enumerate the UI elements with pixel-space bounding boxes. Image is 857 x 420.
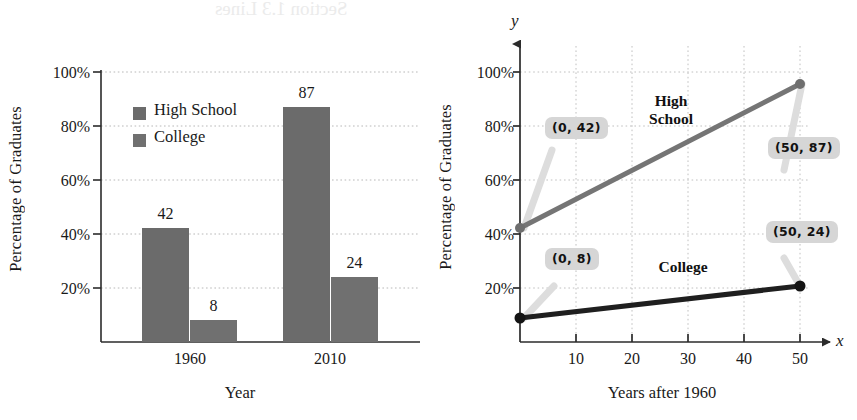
bar-x-axis-title: Year [160, 383, 320, 403]
legend-label-college: College [154, 127, 205, 147]
series-label-high-school-line2: School [628, 111, 714, 127]
legend-label-high-school: High School [154, 100, 237, 120]
series-label-college: College [638, 259, 728, 275]
bar-value-2010-college: 24 [331, 254, 378, 272]
callout-0-8: (0, 8) [545, 248, 599, 270]
bar-value-1960-college: 8 [190, 297, 237, 315]
legend-swatch-college [133, 134, 146, 147]
bar-1960-college [190, 320, 237, 342]
series-label-high-school-line1: High [628, 93, 714, 109]
line-xtick-20: 20 [602, 350, 662, 368]
point-college-50-24 [795, 281, 806, 292]
bar-xtick-2010: 2010 [280, 350, 380, 368]
line-xtick-10: 10 [546, 350, 606, 368]
bar-2010-college [331, 277, 378, 342]
line-gridlines [520, 46, 810, 338]
callout-0-42: (0, 42) [545, 117, 608, 139]
callout-50-87: (50, 87) [768, 137, 840, 159]
bar-2010-high-school [283, 107, 330, 342]
bar-chart-panel: Percentage of Graduates 100% 80% 60% 40%… [0, 0, 432, 420]
bar-1960-high-school [142, 228, 189, 342]
line-chart-panel: Percentage of Graduates 100% 80% 60% 40%… [432, 0, 857, 420]
bar-axis-ticks [93, 72, 101, 288]
callout-50-24: (50, 24) [766, 221, 838, 243]
figure-two-panel-graduation-rates: Section 1.3 Lines Percentage of Graduate… [0, 0, 857, 420]
line-x-axis-title: Years after 1960 [572, 383, 752, 403]
legend-swatch-high-school [133, 107, 146, 120]
point-high-school-0-42 [515, 223, 525, 233]
bar-value-2010-high-school: 87 [283, 84, 330, 102]
line-axis-lines [520, 44, 830, 342]
point-high-school-50-87 [795, 79, 805, 89]
point-college-0-8 [515, 313, 526, 324]
line-xtick-50: 50 [770, 350, 830, 368]
line-x-variable-label: x [836, 331, 844, 351]
bar-xtick-1960: 1960 [140, 350, 240, 368]
line-xtick-30: 30 [658, 350, 718, 368]
bar-value-1960-high-school: 42 [142, 205, 189, 223]
line-y-variable-label: y [511, 11, 519, 31]
series-college [515, 281, 806, 324]
line-xtick-40: 40 [714, 350, 774, 368]
